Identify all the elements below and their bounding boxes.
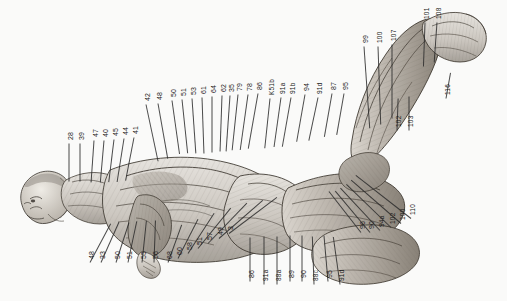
- callout-label-3: 3: [227, 226, 234, 230]
- callout-label-42: 42: [144, 93, 151, 101]
- leader-line-28: [69, 144, 70, 182]
- callout-label-88c: 88c: [312, 270, 319, 281]
- callout-label-51: 51: [180, 88, 187, 96]
- callout-label-89: 89: [288, 270, 295, 278]
- callout-label-95: 95: [326, 270, 333, 278]
- callout-label-108: 108: [435, 8, 442, 19]
- callout-label-48: 48: [156, 92, 163, 100]
- callout-label-90: 90: [300, 270, 307, 278]
- callout-label-64: 64: [210, 85, 217, 93]
- callout-label-86: 86: [248, 270, 255, 278]
- callout-label-91a: 91a: [279, 83, 286, 94]
- callout-label-116: 116: [444, 84, 451, 95]
- callout-label-48: 48: [88, 251, 95, 259]
- leader-line-39: [80, 144, 81, 182]
- callout-label-91d: 91d: [338, 270, 345, 281]
- callout-label-62: 62: [220, 84, 227, 92]
- callout-label-110: 110: [409, 204, 416, 215]
- callout-label-51: 51: [126, 251, 133, 259]
- callout-label-K51b: K51b: [268, 79, 275, 95]
- callout-label-103: 103: [407, 116, 414, 127]
- callout-label-91a: 91a: [262, 270, 269, 281]
- leader-line-64: [212, 97, 213, 153]
- callout-label-79: 79: [236, 83, 243, 91]
- callout-label-33: 33: [99, 251, 106, 259]
- callout-label-100: 100: [376, 32, 383, 43]
- callout-label-68: 68: [166, 251, 173, 259]
- callout-label-91b: 91b: [289, 83, 296, 94]
- callout-label-39: 39: [78, 132, 85, 140]
- callout-label-44: 44: [122, 127, 129, 135]
- callout-label-49: 49: [217, 227, 224, 235]
- callout-label-41: 41: [132, 126, 139, 134]
- ecorche-figure-illustration: [0, 0, 507, 301]
- callout-label-57: 57: [206, 232, 213, 240]
- callout-label-53: 53: [190, 87, 197, 95]
- callout-label-78: 78: [246, 83, 253, 91]
- callout-label-40: 40: [102, 129, 109, 137]
- callout-label-94: 94: [303, 83, 310, 91]
- callout-label-88a: 88a: [275, 270, 282, 281]
- callout-label-86: 86: [256, 82, 263, 90]
- callout-label-102: 102: [395, 116, 402, 127]
- callout-label-60: 60: [176, 247, 183, 255]
- callout-label-50: 50: [114, 251, 121, 259]
- callout-label-91d: 91d: [316, 83, 323, 94]
- callout-label-28: 28: [67, 132, 74, 140]
- callout-label-107: 107: [390, 30, 397, 41]
- callout-label-87: 87: [330, 82, 337, 90]
- callout-label-35: 35: [228, 84, 235, 92]
- anatomical-plate: 28394740454441424850515361646235797886K5…: [0, 0, 507, 301]
- callout-label-45: 45: [112, 128, 119, 136]
- callout-label-56: 56: [152, 251, 159, 259]
- callout-label-101: 101: [423, 8, 430, 19]
- callout-label-51: 51: [196, 237, 203, 245]
- callout-label-95: 95: [342, 82, 349, 90]
- callout-label-55: 55: [140, 251, 147, 259]
- leader-line-107: [392, 45, 393, 119]
- callout-label-99: 99: [362, 35, 369, 43]
- callout-label-61: 61: [200, 86, 207, 94]
- callout-label-58: 58: [186, 242, 193, 250]
- callout-label-47: 47: [92, 129, 99, 137]
- callout-label-50: 50: [170, 89, 177, 97]
